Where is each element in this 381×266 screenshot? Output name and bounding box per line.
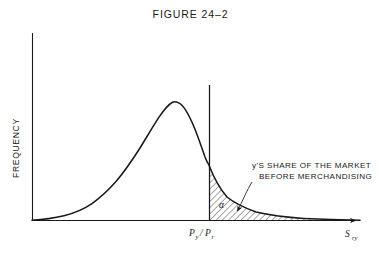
y-axis-label: FREQUENCY [11,118,21,178]
tick-numerator-main: P [188,228,195,238]
figure-container: FIGURE 24–2 FREQ [0,0,381,266]
tick-numerator-sub: y [195,233,199,240]
annotation-line-1: y'S SHARE OF THE MARKET [252,161,371,170]
x-axis-label-sub: ry [352,234,358,241]
frequency-distribution-chart: FREQUENCY S ry P y / P r α y'S SHARE OF … [0,0,381,266]
tick-denominator-main: P [204,228,211,238]
tick-separator: / [199,228,204,238]
annotation-line-2: BEFORE MERCHANDISING [259,172,372,181]
price-ratio-tick-label: P y / P r [188,228,215,240]
x-axis-label-main: S [345,229,350,239]
tick-denominator-sub: r [212,233,215,240]
